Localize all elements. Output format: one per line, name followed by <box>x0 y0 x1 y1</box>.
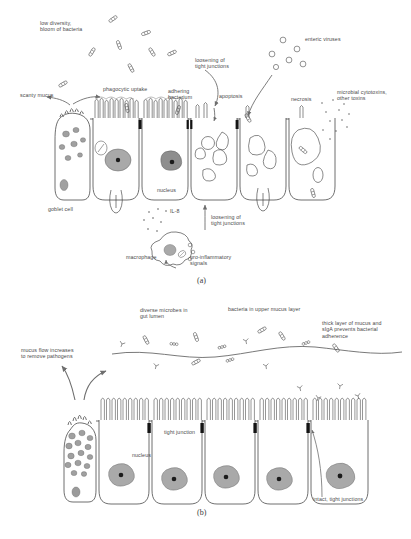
panel-label-b: (b) <box>197 508 206 517</box>
panel-b-artwork <box>62 326 402 504</box>
epithelium-b <box>64 415 368 504</box>
nuclei-a <box>105 149 182 171</box>
mucus-flow-arrows <box>62 366 106 400</box>
il8-particles <box>143 208 167 232</box>
label-diverse-microbes: diverse microbes in gut lumen <box>140 307 188 320</box>
figure-artwork <box>0 0 411 539</box>
label-mucus-flow: mucus flow increases to remove pathogens <box>21 347 74 360</box>
label-goblet-cell-a: goblet cell <box>48 206 73 212</box>
goblet-granules-a <box>59 127 85 190</box>
nuclei-b <box>109 463 355 490</box>
label-scanty-mucus: scanty mucus <box>20 92 54 98</box>
necrotic-cytoplasm <box>195 113 323 198</box>
microvilli-a <box>95 98 303 118</box>
microvilli-b <box>101 398 366 420</box>
enteric-virus-particles <box>269 37 306 70</box>
basal-extrusions-a <box>110 188 270 213</box>
internalized-bacterium <box>95 141 107 155</box>
goblet-apical-tufts-b <box>68 415 91 425</box>
label-low-diversity: low diversity, bloom of bacteria <box>40 20 82 33</box>
toxin-particles <box>321 99 349 139</box>
label-nucleus-a: nucleus <box>157 187 176 193</box>
label-pro-inflammatory-signals: pro-inflammatory signals <box>190 254 231 267</box>
panel-a-artwork <box>47 15 350 268</box>
luminal-microbes-b <box>118 326 339 369</box>
label-tight-junction: tight junction <box>164 429 195 435</box>
goblet-granules-b <box>65 430 93 497</box>
figure-root: low diversity, bloom of bacteria enteric… <box>0 0 411 539</box>
tight-junctions-a <box>139 120 239 129</box>
panel-label-a: (a) <box>197 276 206 285</box>
intact-junction-pointer <box>312 430 322 497</box>
mucus-surface-line <box>112 346 402 357</box>
label-thick-mucus-siga: thick layer of mucus and sIgA prevents b… <box>322 320 382 339</box>
label-adhering-bacterium: adhering bacterium <box>168 88 192 101</box>
label-bacteria-upper-mucus: bacteria in upper mucus layer <box>228 306 300 312</box>
label-necrosis: necrosis <box>291 96 312 102</box>
label-phagocytic-uptake: phagocytic uptake <box>103 86 147 92</box>
label-apoptosis: apoptosis <box>219 93 243 99</box>
label-enteric-viruses: enteric viruses <box>305 36 341 42</box>
annotation-arrows-a <box>47 70 272 268</box>
label-loosening-tight-junctions-top: loosening of tight junctions <box>195 57 229 70</box>
label-il8: IL-8 <box>170 208 180 214</box>
label-macrophage: macrophage <box>126 254 156 260</box>
label-microbial-cytotoxins: microbial cytotoxins, other toxins <box>337 89 387 102</box>
label-loosening-tight-junctions-bottom: loosening of tight junctions <box>211 214 245 227</box>
label-intact-tight-junctions: intact, tight junctions <box>313 496 363 502</box>
label-nucleus-b: nucleus <box>132 452 151 458</box>
macrophage-cell <box>151 232 195 266</box>
